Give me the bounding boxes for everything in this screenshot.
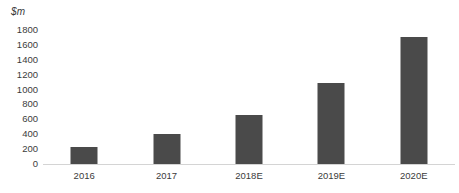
y-axis-tick-label: 1000 [0, 85, 38, 95]
x-axis-category-label: 2018E [235, 170, 262, 182]
bar-slot [208, 30, 290, 164]
y-axis-tick-label: 800 [0, 99, 38, 109]
y-axis-tick-label: 600 [0, 114, 38, 124]
bar-slot [43, 30, 125, 164]
y-axis-tick-label: 400 [0, 129, 38, 139]
bar[interactable] [71, 147, 98, 164]
y-axis-tick-label: 200 [0, 144, 38, 154]
bar-slot [290, 30, 372, 164]
bar[interactable] [153, 134, 180, 164]
bar-slot [125, 30, 207, 164]
bars-layer [43, 30, 455, 164]
x-axis-category-labels: 201620172018E2019E2020E [43, 170, 455, 186]
y-axis-title: $m [11, 6, 25, 17]
x-axis-category-label: 2017 [156, 170, 177, 182]
x-axis-category-label: 2020E [400, 170, 427, 182]
bar[interactable] [400, 37, 427, 164]
y-axis-tick-label: 1200 [0, 70, 38, 80]
bar-chart: $m 020040060080010001200140016001800 201… [0, 0, 459, 193]
x-axis-line [43, 164, 455, 165]
y-axis-tick-labels: 020040060080010001200140016001800 [0, 30, 38, 164]
bar-slot [373, 30, 455, 164]
y-axis-tick-label: 0 [0, 159, 38, 169]
bar[interactable] [318, 83, 345, 164]
y-axis-tick-label: 1400 [0, 55, 38, 65]
x-axis-category-label: 2019E [318, 170, 345, 182]
y-axis-tick-label: 1600 [0, 40, 38, 50]
x-axis-category-label: 2016 [74, 170, 95, 182]
y-axis-tick-label: 1800 [0, 25, 38, 35]
bar[interactable] [235, 115, 262, 164]
